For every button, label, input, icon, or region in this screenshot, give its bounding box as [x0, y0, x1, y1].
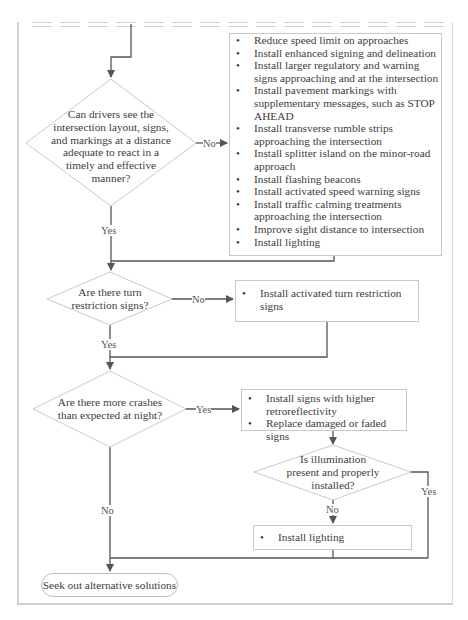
action-item: Install lighting [230, 236, 441, 249]
decision-1-line: timely and effective [36, 159, 186, 172]
action-item: Install flashing beacons [230, 173, 441, 186]
decision-4-yes-label: Yes [421, 486, 436, 497]
decision-4-line: Is illumination [273, 453, 393, 466]
decision-3-line: Are there more crashes [40, 396, 180, 409]
actions-3-box: Install signs with higher retroreflectiv… [241, 389, 407, 431]
action-item: Install transverse rumble strips approac… [230, 122, 441, 147]
decision-1-line: Can drivers see the [36, 108, 186, 121]
decision-3-question: Are there more crashes than expected at … [40, 396, 180, 422]
decision-1-question: Can drivers see the intersection layout,… [36, 108, 186, 185]
action-item: Install pavement markings with supplemen… [230, 84, 441, 122]
actions-2-box: Install activated turn restriction signs [235, 280, 419, 322]
decision-1-no-label: No [203, 138, 216, 149]
action-item: Replace damaged or faded signs [242, 417, 406, 442]
action-item: Install traffic calming treatments appro… [230, 198, 441, 223]
decision-1-line: and markings at a distance [36, 134, 186, 147]
decision-4-no-label: No [326, 504, 339, 515]
entry-connector [111, 24, 131, 77]
action-item: Improve sight distance to intersection [230, 223, 441, 236]
decision-2-line: Are there turn [50, 286, 170, 299]
decision-1-line: adequate to react in a [36, 146, 186, 159]
decision-4-line: installed? [273, 479, 393, 492]
action-item: Install splitter island on the minor-roa… [230, 147, 441, 172]
decision-2-no-label: No [192, 294, 205, 305]
decision-1-line: manner? [36, 172, 186, 185]
decision-4-question: Is illumination present and properly ins… [273, 453, 393, 491]
action-item: Install activated speed warning signs [230, 185, 441, 198]
actions-4-box: Install lighting [253, 525, 412, 550]
decision-2-line: restriction signs? [50, 299, 170, 312]
decision-3-line: than expected at night? [40, 409, 180, 422]
action-item: Reduce speed limit on approaches [230, 34, 441, 47]
action-item: Install enhanced signing and delineation [230, 47, 441, 60]
decision-3-no-label: No [101, 505, 114, 516]
action-item: Install lighting [254, 531, 411, 544]
terminal-node: Seek out alternative solutions [41, 573, 178, 597]
action-item: Install signs with higher retroreflectiv… [242, 392, 406, 417]
actions-1-box: Reduce speed limit on approaches Install… [229, 33, 442, 256]
action-item: Install activated turn restriction signs [236, 287, 418, 312]
decision-1-yes-label: Yes [101, 225, 116, 236]
decision-1-line: intersection layout, signs, [36, 121, 186, 134]
decision-4-line: present and properly [273, 466, 393, 479]
decision-2-question: Are there turn restriction signs? [50, 286, 170, 312]
decision-2-yes-label: Yes [101, 339, 116, 350]
decision-3-yes-label: Yes [196, 404, 211, 415]
action-item: Install larger regulatory and warning si… [230, 59, 441, 84]
